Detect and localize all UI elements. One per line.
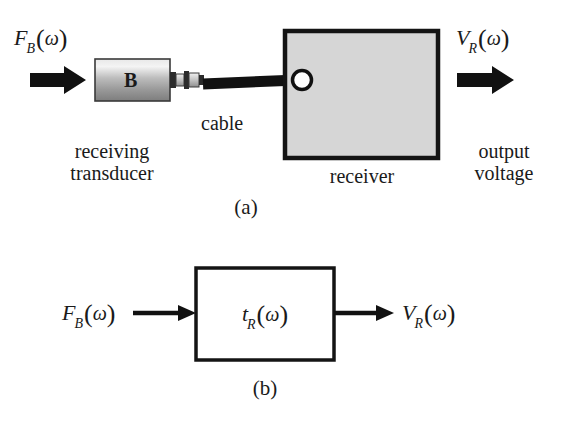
receiving-transducer-line2: transducer	[36, 162, 188, 184]
output-voltage-label: output voltage	[452, 140, 556, 185]
output-voltage-line1: output	[452, 140, 556, 162]
panel-a-output-label: VR(ω)	[456, 22, 509, 54]
panel-b-input-label: FB(ω)	[62, 297, 115, 329]
panel-a-input-label: FB(ω)	[14, 22, 67, 54]
panel-a-input-arrow	[30, 66, 86, 94]
panel-a-output-arrow	[457, 66, 514, 94]
receiver-box	[285, 31, 438, 158]
transducer-connector	[170, 71, 204, 89]
transducer-b-label: B	[124, 69, 138, 91]
diagram-graphics	[0, 0, 561, 426]
panel-b-output-label: VR(ω)	[402, 297, 455, 329]
receiving-transducer-line1: receiving	[36, 140, 188, 162]
figure-container: FB(ω) B cable receiving transducer recei…	[0, 0, 561, 426]
panel-b-output-arrow	[334, 305, 394, 321]
cable-label: cable	[201, 112, 243, 134]
receiving-transducer-label: receiving transducer	[36, 140, 188, 185]
panel-b-input-arrow	[133, 305, 196, 321]
receiver-label: receiver	[300, 165, 424, 187]
cable-connector-node	[293, 71, 312, 90]
caption-a: (a)	[216, 196, 276, 220]
output-voltage-line2: voltage	[452, 162, 556, 184]
panel-b-block-label: tR(ω)	[206, 298, 324, 330]
caption-b: (b)	[235, 377, 295, 401]
